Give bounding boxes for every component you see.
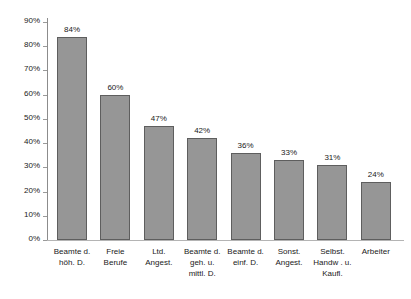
category-label: FreieBerufe: [92, 246, 138, 268]
y-axis-tick-mark: [43, 167, 47, 168]
y-axis-tick-mark: [43, 119, 47, 120]
category-label-line: höh. D.: [49, 257, 95, 268]
category-label: Arbeiter: [353, 246, 399, 257]
category-label: Ltd.Angest.: [136, 246, 182, 268]
category-label-line: Kaufl.: [309, 268, 355, 279]
y-axis-tick-label: 40%: [24, 137, 40, 146]
category-label: Beamte d.einf. D.: [223, 246, 269, 268]
y-axis-line: [47, 18, 48, 241]
category-label-line: einf. D.: [223, 257, 269, 268]
y-axis-tick-mark: [43, 46, 47, 47]
x-axis-baseline: [47, 240, 404, 241]
category-label-line: Sonst.: [266, 246, 312, 257]
y-axis-tick-label: 50%: [24, 113, 40, 122]
category-label-line: Freie: [92, 246, 138, 257]
y-axis-tick-label: 80%: [24, 40, 40, 49]
category-label-line: mittl. D.: [179, 268, 225, 279]
y-axis-tick-label: 0%: [28, 234, 40, 243]
category-label: Sonst.Angest.: [266, 246, 312, 268]
bar-value-label: 31%: [307, 153, 357, 162]
y-axis-tick-label: 70%: [24, 64, 40, 73]
bar: [361, 182, 391, 240]
y-axis-tick-mark: [43, 95, 47, 96]
category-label-line: Berufe: [92, 257, 138, 268]
category-label-line: Beamte d.: [223, 246, 269, 257]
category-label: Beamte d.höh. D.: [49, 246, 95, 268]
y-axis-tick-mark: [43, 192, 47, 193]
bar-chart: 0%10%20%30%40%50%60%70%80%90% 84%60%47%4…: [0, 0, 411, 299]
y-axis-tick-mark: [43, 22, 47, 23]
category-label-line: Beamte d.: [179, 246, 225, 257]
category-label-line: Beamte d.: [49, 246, 95, 257]
y-axis-tick-label: 20%: [24, 186, 40, 195]
bar-value-label: 24%: [351, 170, 401, 179]
y-axis-tick-label: 30%: [24, 161, 40, 170]
category-label-line: Handw . u.: [309, 257, 355, 268]
category-label-line: Angest.: [266, 257, 312, 268]
bar: [231, 153, 261, 240]
y-axis-tick-label: 10%: [24, 210, 40, 219]
y-axis-tick-label: 60%: [24, 89, 40, 98]
category-label-line: geh. u.: [179, 257, 225, 268]
category-label-line: Angest.: [136, 257, 182, 268]
bar: [317, 165, 347, 240]
bar: [274, 160, 304, 240]
bar: [57, 37, 87, 240]
y-axis-tick-mark: [43, 143, 47, 144]
bar: [100, 95, 130, 240]
bar: [187, 138, 217, 240]
bar: [144, 126, 174, 240]
bar-value-label: 42%: [177, 126, 227, 135]
category-label-line: Arbeiter: [353, 246, 399, 257]
y-axis-tick-mark: [43, 240, 47, 241]
y-axis-tick-mark: [43, 70, 47, 71]
y-axis-tick-mark: [43, 216, 47, 217]
bar-value-label: 60%: [90, 83, 140, 92]
bar-value-label: 84%: [47, 25, 97, 34]
category-label-line: Ltd.: [136, 246, 182, 257]
category-label: Selbst.Handw . u.Kaufl.: [309, 246, 355, 279]
y-axis-tick-label: 90%: [24, 16, 40, 25]
category-label: Beamte d.geh. u.mittl. D.: [179, 246, 225, 279]
category-label-line: Selbst.: [309, 246, 355, 257]
bar-value-label: 47%: [134, 114, 184, 123]
